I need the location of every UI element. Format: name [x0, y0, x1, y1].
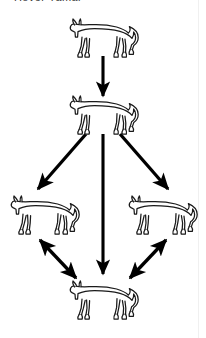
dog-icon [60, 16, 146, 60]
dog-icon [60, 93, 146, 137]
dog-icon [119, 193, 205, 237]
edge-right-bottom [130, 240, 166, 278]
edge-second-to-right [120, 134, 168, 189]
dog-icon [1, 193, 87, 237]
edge-left-bottom [40, 240, 76, 278]
edge-second-to-left [38, 134, 86, 189]
dog-icon [60, 278, 146, 322]
diagram-canvas: Hover Yamai [0, 0, 206, 338]
